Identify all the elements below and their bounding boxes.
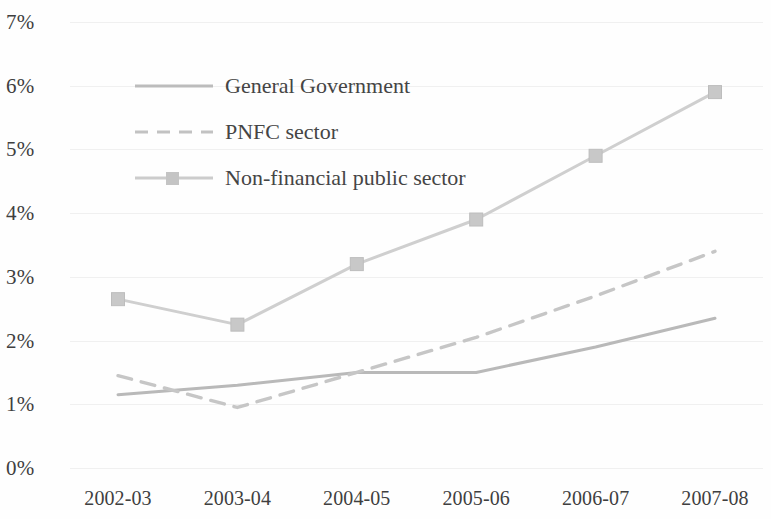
chart-container: 7%6%5%4%3%2%1%0% 2002-032003-042004-0520… xyxy=(0,0,771,519)
series-general-government xyxy=(118,318,715,394)
legend-item-non-financial-public-sector: Non-financial public sector xyxy=(133,155,533,201)
legend-label-non-financial-public-sector: Non-financial public sector xyxy=(225,165,466,191)
data-point-marker xyxy=(350,258,363,271)
legend-item-pnfc-sector: PNFC sector xyxy=(133,109,533,155)
data-point-marker xyxy=(709,86,722,99)
legend-swatch-dashed-line xyxy=(133,125,215,139)
legend-item-general-government: General Government xyxy=(133,63,533,109)
data-point-marker xyxy=(112,293,125,306)
chart-legend: General Government PNFC sector Non-finan… xyxy=(133,63,533,201)
data-point-marker xyxy=(231,318,244,331)
series-line xyxy=(118,318,715,394)
legend-swatch-solid-line xyxy=(133,79,215,93)
series-pnfc-sector xyxy=(118,251,715,407)
data-point-marker xyxy=(589,149,602,162)
legend-label-general-government: General Government xyxy=(225,73,410,99)
legend-label-pnfc-sector: PNFC sector xyxy=(225,119,338,145)
series-line xyxy=(118,251,715,407)
legend-swatch-square-marker-line xyxy=(133,171,215,185)
data-point-marker xyxy=(470,213,483,226)
